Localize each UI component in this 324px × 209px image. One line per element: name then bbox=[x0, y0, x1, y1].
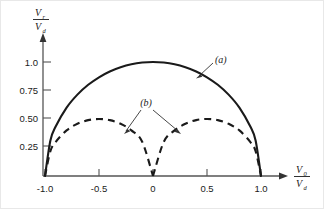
annotation-b-label: (b) bbox=[140, 97, 152, 109]
y-tick-label-3: 0.50 bbox=[20, 113, 39, 124]
figure-container: 1.0 0.75 0.50 0.25 V r V d -1.0 -0.5 0 0… bbox=[0, 0, 324, 209]
y-tick-label-2: 0.75 bbox=[20, 85, 39, 96]
x-tick-label-2: -0.5 bbox=[91, 183, 107, 194]
x-tick-label-1: -1.0 bbox=[37, 183, 53, 194]
plot-svg: 1.0 0.75 0.50 0.25 V r V d -1.0 -0.5 0 0… bbox=[0, 0, 324, 209]
y-tick-label-1: 1.0 bbox=[25, 57, 38, 68]
y-tick-label-4: 0.25 bbox=[20, 141, 39, 152]
annotation-a-label: (a) bbox=[215, 54, 227, 66]
figure-border bbox=[1, 1, 324, 209]
x-tick-label-5: 1.0 bbox=[254, 183, 267, 194]
x-tick-label-4: 0.5 bbox=[200, 183, 213, 194]
x-tick-label-3: 0 bbox=[150, 183, 155, 194]
